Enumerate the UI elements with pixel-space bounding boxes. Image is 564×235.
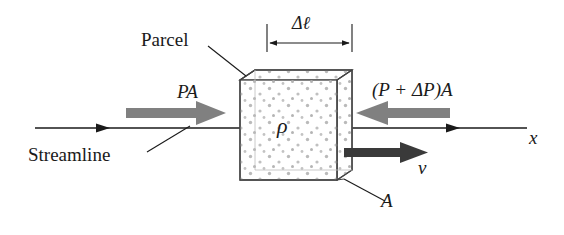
fluid-parcel-cube: [240, 70, 352, 180]
label-pressure-force-left: PA: [177, 82, 198, 101]
streamline-left-arrowhead: [96, 124, 110, 133]
pressure-force-right-arrow: [356, 101, 450, 125]
physics-diagram-parcel-streamline: Parcel Streamline PA (P + ΔP)A Δℓ ρ v x …: [0, 0, 564, 235]
label-density: ρ: [277, 115, 288, 137]
label-parcel: Parcel: [141, 30, 188, 49]
cube-density-speckles: [240, 70, 352, 180]
label-axis-x: x: [529, 128, 537, 147]
label-velocity: v: [418, 158, 426, 177]
label-pressure-force-right: (P + ΔP)A: [372, 80, 453, 99]
label-streamline: Streamline: [28, 145, 110, 164]
streamline-right-arrowhead: [446, 124, 460, 133]
velocity-arrow: [344, 142, 428, 163]
label-parcel-length: Δℓ: [292, 14, 310, 32]
label-cross-sectional-area: A: [381, 191, 393, 210]
leader-line-area: [344, 179, 385, 201]
pressure-force-left-arrow: [126, 101, 226, 125]
leader-line-streamline: [147, 126, 190, 152]
leader-line-parcel: [208, 46, 246, 76]
